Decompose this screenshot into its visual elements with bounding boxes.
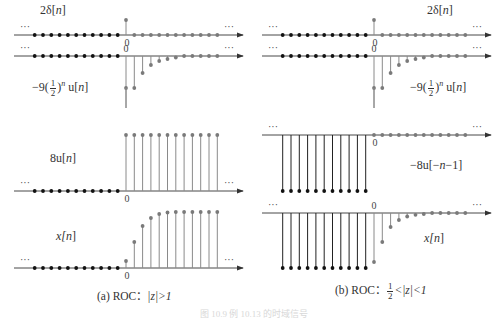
sample-dot — [397, 33, 401, 37]
sample-dot — [33, 266, 37, 270]
sample-dot — [331, 266, 335, 270]
neg8u-fn: −8u[− — [410, 158, 440, 172]
sample-dot — [331, 54, 335, 58]
sample-dot — [174, 33, 178, 37]
frac-den: 2 — [428, 89, 435, 98]
sample-dot — [389, 33, 393, 37]
sample-dot — [58, 189, 62, 193]
sample-dot — [91, 266, 95, 270]
sample-dot — [414, 57, 418, 61]
sample-dot — [322, 54, 326, 58]
sample-dot — [455, 133, 459, 137]
stem-plot-2delta: ······0 — [262, 18, 491, 48]
sample-dot — [124, 133, 128, 137]
sample-dot — [108, 54, 112, 58]
sample-dot — [49, 266, 53, 270]
sample-dot — [91, 189, 95, 193]
sample-dot — [191, 133, 195, 137]
sample-dot — [215, 133, 219, 137]
sample-dot — [422, 212, 426, 216]
sample-dot — [463, 33, 467, 37]
sample-dot — [108, 33, 112, 37]
sample-dot — [182, 54, 186, 58]
sample-dot — [347, 189, 351, 193]
sample-dot — [99, 54, 103, 58]
sample-dot — [174, 56, 178, 60]
ellipsis-left: ··· — [268, 121, 278, 132]
sample-dot — [364, 266, 368, 270]
sample-dot — [83, 189, 87, 193]
sample-dot — [447, 211, 451, 215]
sample-dot — [439, 211, 443, 215]
sample-dot — [58, 33, 62, 37]
sample-dot — [149, 216, 153, 220]
sample-dot — [74, 266, 78, 270]
sample-dot — [347, 33, 351, 37]
caption-a: (a) ROC：|z|>1 — [97, 287, 172, 303]
sample-dot — [297, 189, 301, 193]
sample-dot — [99, 189, 103, 193]
ellipsis-right: ··· — [472, 199, 482, 210]
sample-dot — [389, 225, 393, 229]
sample-dot — [339, 33, 343, 37]
sample-dot — [141, 33, 145, 37]
sample-dot — [83, 266, 87, 270]
sample-dot — [199, 33, 203, 37]
sample-dot — [108, 189, 112, 193]
ellipsis-right: ··· — [472, 121, 482, 132]
sample-dot — [331, 33, 335, 37]
sample-dot — [306, 54, 310, 58]
sample-dot — [339, 189, 343, 193]
sample-dot — [281, 189, 285, 193]
ellipsis-left: ··· — [20, 254, 30, 265]
sample-dot — [405, 133, 409, 137]
sample-dot — [33, 189, 37, 193]
sample-dot — [141, 133, 145, 137]
sample-dot — [149, 33, 153, 37]
label-a-2delta: 2δ[n] — [40, 3, 66, 18]
sample-dot — [132, 33, 136, 37]
caption-b-condition: <|z|<1 — [394, 284, 426, 296]
sample-dot — [33, 33, 37, 37]
sample-dot — [157, 59, 161, 63]
sample-dot — [430, 33, 434, 37]
sample-dot — [364, 189, 368, 193]
sample-dot — [149, 133, 153, 137]
caption-a-prefix: (a) ROC： — [97, 290, 147, 302]
sample-dot — [207, 54, 211, 58]
label-b-x: x[n] — [424, 231, 444, 246]
sample-dot — [306, 189, 310, 193]
sample-dot — [66, 54, 70, 58]
sample-dot — [33, 54, 37, 58]
bracket-close: ] — [62, 3, 66, 17]
sample-dot — [289, 189, 293, 193]
sample-dot — [99, 266, 103, 270]
sample-dot — [372, 18, 376, 22]
sample-dot — [191, 54, 195, 58]
ellipsis-left: ··· — [20, 177, 30, 188]
sample-dot — [322, 33, 326, 37]
sample-dot — [191, 33, 195, 37]
sample-dot — [83, 33, 87, 37]
label-b-2delta: 2δ[n] — [427, 3, 453, 18]
sample-dot — [199, 54, 203, 58]
sample-dot — [281, 54, 285, 58]
sample-dot — [289, 54, 293, 58]
bracket-close: ] — [72, 151, 76, 165]
sample-dot — [58, 54, 62, 58]
caption-b: (b) ROC：12<|z|<1 — [335, 281, 427, 301]
sample-dot — [116, 54, 120, 58]
stem-plot-xb: ······0 — [262, 199, 491, 270]
sample-dot — [66, 189, 70, 193]
sample-dot — [157, 212, 161, 216]
sample-dot — [314, 266, 318, 270]
sample-dot — [314, 54, 318, 58]
zero-tick-label: 0 — [372, 200, 377, 211]
sample-dot — [141, 71, 145, 75]
coef-neg9: −9 — [410, 80, 423, 94]
sample-dot — [297, 54, 301, 58]
sample-dot — [356, 189, 360, 193]
sample-dot — [41, 33, 45, 37]
sample-dot — [430, 54, 434, 58]
sample-dot — [66, 33, 70, 37]
